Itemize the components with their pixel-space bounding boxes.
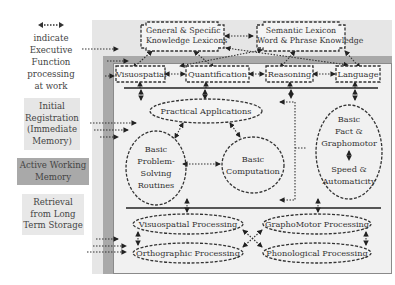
node-line: Solving [126,167,186,179]
orthographic-processing: Orthographic Processing [133,248,243,259]
node-line: Computation [222,165,284,177]
domain-visuospatial: Visuospatial [116,69,165,80]
node-line: Graphomotor [316,137,382,149]
basic-fact-graphomotor: Basic Fact & Graphomotor [316,113,382,149]
node-line: Basic [126,143,186,155]
lexicon-line: Knowledge Lexicons [146,36,218,46]
domain-reasoning: Reasoning [266,69,313,80]
node-line: Basic [222,153,284,165]
lexicon-line: Word & Phrase Knowledge [257,36,345,46]
node-line: Problem- [126,155,186,167]
basic-problem-solving-routines: Basic Problem- Solving Routines [126,143,186,191]
lexicon-line: General & Specific [146,26,218,36]
speed-automaticity: Speed & Automaticity [316,163,382,187]
practical-applications: Practical Applications [150,106,262,117]
node-line: Speed & [316,163,382,175]
general-knowledge-lexicons: General & Specific Knowledge Lexicons [146,26,218,46]
graphomotor-processing: GraphoMotor Processing [263,219,371,230]
semantic-lexicon: Semantic Lexicon Word & Phrase Knowledge [257,26,345,46]
lexicon-line: Semantic Lexicon [257,26,345,36]
visuospatial-processing: Visuospatial Processing [133,219,243,230]
domain-language: Language [336,69,380,80]
domain-quantification: Quantification [186,69,249,80]
phonological-processing: Phonological Processing [263,248,371,259]
node-line: Automaticity [316,175,382,187]
node-line: Routines [126,179,186,191]
node-line: Fact & [316,125,382,137]
node-line: Basic [316,113,382,125]
basic-computation: Basic Computation [222,153,284,177]
